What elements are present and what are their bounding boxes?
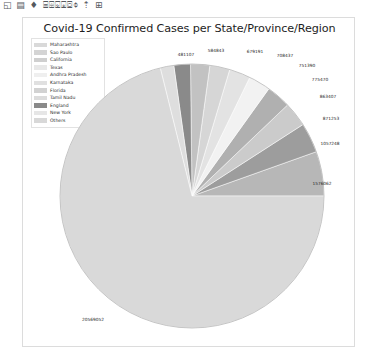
legend-item: Tamil Nadu xyxy=(34,94,102,102)
legend-swatch-icon xyxy=(34,81,47,86)
legend-item: Karnataka xyxy=(34,79,102,87)
legend-swatch-icon xyxy=(34,73,47,78)
pie-slice-value-label: 1576062 xyxy=(312,181,331,186)
pie-slice xyxy=(192,65,230,196)
legend-swatch-icon xyxy=(34,43,47,48)
pie-slice-value-label: 679191 xyxy=(247,49,263,54)
pie-slice-value-label: 708437 xyxy=(277,53,293,58)
pie-slice-value-label: 481107 xyxy=(178,52,194,57)
pie-slice xyxy=(192,70,250,196)
pie-slice xyxy=(192,105,303,196)
legend-item: Andhra Pradesh xyxy=(34,71,102,79)
pie-slice-value-label: 584843 xyxy=(208,48,224,53)
page-bottom-edge xyxy=(0,352,377,353)
legend-item-label: Maharashtra xyxy=(50,41,79,49)
legend-swatch-icon xyxy=(34,50,47,55)
pie-slice-value-label: 775470 xyxy=(312,77,328,82)
legend-item-label: Florida xyxy=(50,87,66,95)
legend-item: New York xyxy=(34,109,102,117)
pie-slice xyxy=(160,65,192,196)
legend-item: England xyxy=(34,102,102,110)
legend-swatch-icon xyxy=(34,65,47,70)
legend-item: Texas xyxy=(34,64,102,72)
legend-item-label: Sao Paulo xyxy=(50,49,72,57)
legend-item-label: Texas xyxy=(50,64,63,72)
legend-item-label: New York xyxy=(50,109,71,117)
window-toolbar-strip: ◱ ▤ ♦ ⌸⌹⌺⌻⌼⌽ ⇡ ⊞ xyxy=(0,0,377,14)
legend-item-label: Karnataka xyxy=(50,79,73,87)
pie-slice xyxy=(192,77,269,196)
pie-slice-value-label: 20569052 xyxy=(82,317,104,322)
legend-item-label: Andhra Pradesh xyxy=(50,71,87,79)
toolbar-icon-row: ◱ ▤ ♦ ⌸⌹⌺⌻⌼⌽ ⇡ ⊞ xyxy=(3,0,103,11)
legend-swatch-icon xyxy=(34,96,47,101)
legend-item-label: Tamil Nadu xyxy=(50,94,75,102)
pie-slice-value-label: 751390 xyxy=(299,63,315,68)
legend-item: Maharashtra xyxy=(34,41,102,49)
legend-item: California xyxy=(34,56,102,64)
chart-legend: MaharashtraSao PauloCaliforniaTexasAndhr… xyxy=(31,38,105,128)
legend-item: Florida xyxy=(34,87,102,95)
legend-swatch-icon xyxy=(34,103,47,108)
figure-card: Covid-19 Confirmed Cases per State/Provi… xyxy=(22,17,355,347)
legend-item-label: Others xyxy=(50,117,65,125)
pie-slice xyxy=(192,89,288,196)
legend-item: Others xyxy=(34,117,102,125)
legend-swatch-icon xyxy=(34,58,47,63)
pie-slice-value-label: 871253 xyxy=(323,116,339,121)
pie-slice xyxy=(174,64,192,196)
legend-item-label: England xyxy=(50,102,69,110)
pie-slice xyxy=(192,125,316,196)
legend-swatch-icon xyxy=(34,118,47,123)
pie-slice-value-label: 863407 xyxy=(320,94,336,99)
legend-swatch-icon xyxy=(34,111,47,116)
page-title: Covid-19 Confirmed Cases per State/Provi… xyxy=(23,22,356,35)
pie-slice xyxy=(192,152,324,196)
pie-slice xyxy=(190,64,209,196)
pie-slice-value-label: 1057248 xyxy=(320,141,339,146)
legend-swatch-icon xyxy=(34,88,47,93)
legend-item: Sao Paulo xyxy=(34,49,102,57)
legend-item-label: California xyxy=(50,56,72,64)
